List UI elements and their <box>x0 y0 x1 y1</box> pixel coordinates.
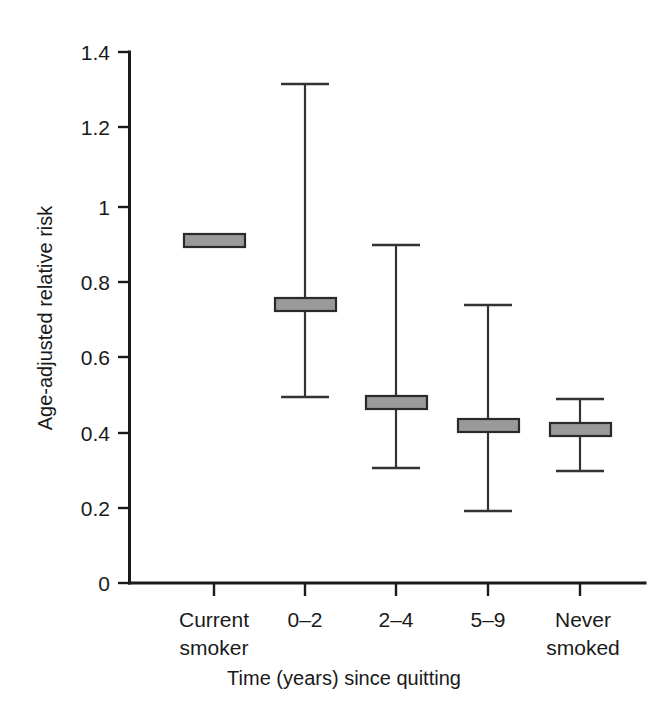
data-point-current-smoker <box>184 234 245 247</box>
y-tick-label-0-4: 0.4 <box>81 422 111 445</box>
y-tick-label-0-6: 0.6 <box>81 346 110 369</box>
y-tick-label-0: 0 <box>98 572 110 595</box>
x-tick-labels: Current smoker 0–2 2–4 5–9 Never smoked <box>179 608 620 659</box>
data-point-2-4 <box>366 245 427 468</box>
data-point-5-9 <box>458 305 519 511</box>
y-tick-label-0-8: 0.8 <box>81 271 110 294</box>
y-tick-labels: 1.4 1.2 1 0.8 0.6 0.4 0.2 0 <box>81 41 111 595</box>
x-axis-title: Time (years) since quitting <box>227 667 461 689</box>
marker-never-smoked <box>550 423 611 436</box>
marker-current-smoker <box>184 234 245 247</box>
y-axis-title: Age-adjusted relative risk <box>34 205 56 431</box>
x-label-current-smoker-line2: smoker <box>180 636 249 659</box>
x-label-2-4: 2–4 <box>378 608 413 631</box>
y-tick-label-1-0: 1 <box>98 196 110 219</box>
y-tick-label-0-2: 0.2 <box>81 497 110 520</box>
y-axis <box>118 52 130 583</box>
y-tick-label-1-4: 1.4 <box>81 41 111 64</box>
x-label-never-smoked-line1: Never <box>555 608 611 631</box>
marker-5-9 <box>458 419 519 432</box>
x-axis <box>130 583 646 596</box>
data-point-0-2 <box>275 84 336 397</box>
chart-canvas: 1.4 1.2 1 0.8 0.6 0.4 0.2 0 Age-adjusted… <box>0 0 651 703</box>
marker-0-2 <box>275 298 336 311</box>
x-label-current-smoker-line1: Current <box>179 608 249 631</box>
x-label-0-2: 0–2 <box>287 608 322 631</box>
relative-risk-figure: 1.4 1.2 1 0.8 0.6 0.4 0.2 0 Age-adjusted… <box>0 0 651 703</box>
x-label-5-9: 5–9 <box>470 608 505 631</box>
data-point-never-smoked <box>550 399 611 471</box>
y-tick-label-1-2: 1.2 <box>81 116 110 139</box>
marker-2-4 <box>366 396 427 409</box>
x-label-never-smoked-line2: smoked <box>546 636 620 659</box>
